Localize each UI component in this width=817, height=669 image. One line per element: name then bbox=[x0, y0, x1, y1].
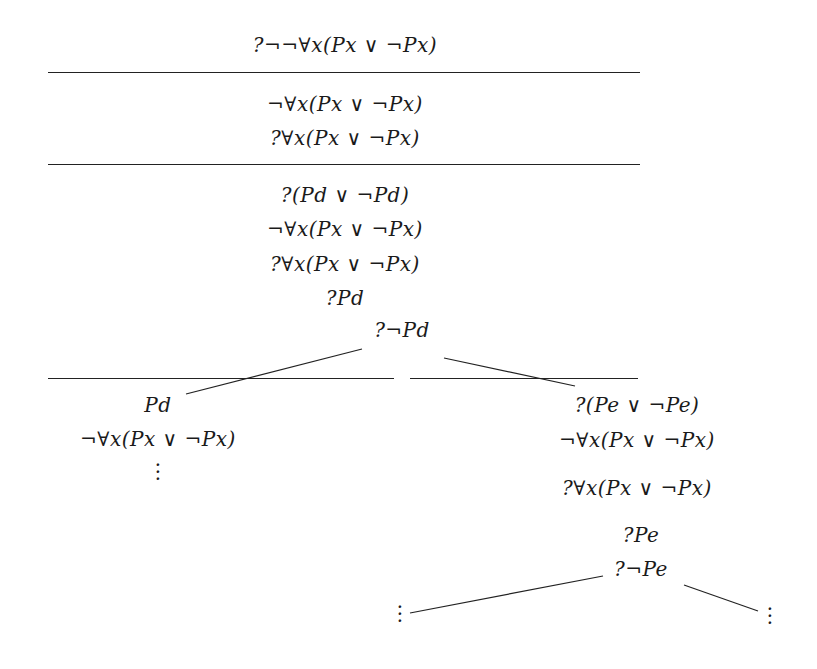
step2-formula-3: ?∀x(Px ∨ ¬Px) bbox=[270, 252, 420, 276]
connector-right-continuation bbox=[684, 585, 758, 611]
right-branch-formula-1: ?(Pe ∨ ¬Pe) bbox=[575, 393, 700, 417]
step1-formula-2: ?∀x(Px ∨ ¬Px) bbox=[270, 126, 420, 150]
connector-left-continuation bbox=[410, 576, 603, 613]
step1-formula-1: ¬∀x(Px ∨ ¬Px) bbox=[267, 92, 423, 116]
root-formula: ?¬¬∀x(Px ∨ ¬Px) bbox=[253, 33, 437, 57]
left-branch-formula-2: ¬∀x(Px ∨ ¬Px) bbox=[80, 427, 236, 451]
step2-formula-5: ?¬Pd bbox=[374, 318, 430, 342]
right-branch-formula-3: ?∀x(Px ∨ ¬Px) bbox=[562, 476, 712, 500]
right-branch-formula-2: ¬∀x(Px ∨ ¬Px) bbox=[559, 428, 715, 452]
connector-to-pd bbox=[186, 349, 362, 394]
step2-formula-4: ?Pd bbox=[326, 286, 364, 310]
right-branch-formula-5: ?¬Pe bbox=[614, 557, 668, 581]
right-right-continuation-dots: ··· bbox=[767, 606, 773, 627]
left-branch-formula-1: Pd bbox=[144, 393, 171, 417]
right-left-continuation-dots: ··· bbox=[397, 604, 403, 625]
step2-formula-2: ¬∀x(Px ∨ ¬Px) bbox=[267, 217, 423, 241]
left-continuation-dots: ··· bbox=[155, 462, 161, 483]
right-branch-formula-4: ?Pe bbox=[623, 523, 660, 547]
step2-formula-1: ?(Pd ∨ ¬Pd) bbox=[281, 183, 409, 207]
connector-to-pe-branch bbox=[444, 358, 575, 386]
